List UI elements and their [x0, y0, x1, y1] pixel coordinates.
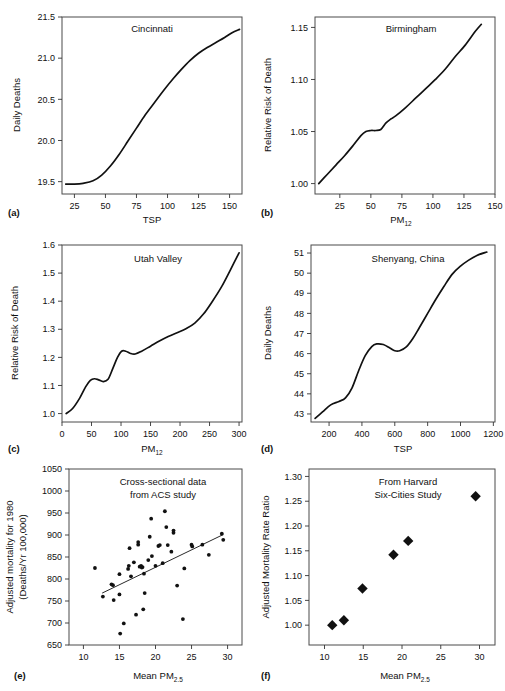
y-tick-label: 950 [47, 508, 62, 518]
y-tick-label: 1.00 [284, 620, 302, 630]
y-tick-label: 1.3 [42, 324, 55, 334]
x-tick-label: 25 [69, 201, 79, 211]
y-axis-label: Daily Deaths [11, 78, 22, 132]
x-tick-label: 1000 [450, 429, 470, 439]
y-tick-label: 1.6 [42, 240, 55, 250]
diamond-marker [357, 583, 367, 593]
y-tick-label: 19.5 [37, 177, 55, 187]
x-tick-label: 300 [232, 429, 247, 439]
y-tick-label: 1.05 [290, 127, 308, 137]
y-tick-label: 700 [47, 618, 62, 628]
y-tick-label: 20.5 [37, 95, 55, 105]
y-axis-label-line1: Adjusted mortality for 1980 [4, 500, 15, 613]
y-tick-label: 1.0 [42, 409, 55, 419]
x-axis-label: Mean PM2.5 [133, 670, 183, 683]
diamond-marker [470, 491, 480, 501]
y-tick-label: 44 [294, 389, 304, 399]
y-tick-label: 1000 [42, 486, 62, 496]
x-tick-label: 20 [150, 652, 160, 662]
y-axis-ticks: 1.01.11.21.31.41.51.6 [42, 240, 62, 419]
data-curve [66, 253, 239, 414]
scatter-point [118, 593, 122, 597]
y-tick-label: 1.2 [42, 353, 55, 363]
scatter-point [118, 572, 122, 576]
panel-f-harvard-six-cities: 1.001.051.101.151.201.251.30 1015202530 … [253, 461, 505, 691]
y-tick-label: 750 [47, 596, 62, 606]
scatter-point [128, 546, 132, 550]
scatter-point [101, 595, 105, 599]
x-tick-label: 125 [191, 201, 206, 211]
scatter-point [172, 531, 176, 535]
x-tick-label: 150 [222, 201, 237, 211]
y-axis-ticks: 434445464748495051 [294, 248, 311, 419]
scatter-point [142, 572, 146, 576]
x-axis-label: TSP [394, 443, 412, 454]
y-tick-label: 1.30 [284, 472, 302, 482]
y-tick-label: 46 [294, 349, 304, 359]
panel-title-line1: From Harvard [379, 476, 438, 487]
panel-title-line2: from ACS study [130, 489, 196, 500]
y-tick-label: 49 [294, 288, 304, 298]
scatter-point [150, 554, 154, 558]
x-axis-label: PM12 [141, 443, 163, 456]
x-tick-label: 100 [425, 201, 440, 211]
panel-letter: (d) [261, 443, 273, 454]
panel-letter: (b) [261, 207, 273, 218]
scatter-point [143, 591, 147, 595]
plot-frame [311, 245, 495, 422]
y-tick-label: 45 [294, 369, 304, 379]
panel-letter: (f) [261, 670, 271, 681]
panel-title: Shenyang, China [372, 253, 446, 264]
panel-d-shenyang: 434445464748495051 20040060080010001200 … [253, 230, 505, 460]
data-curve [319, 24, 482, 183]
y-tick-label: 800 [47, 574, 62, 584]
x-tick-label: 75 [131, 201, 141, 211]
scatter-point [154, 564, 158, 568]
x-tick-label: 100 [114, 429, 129, 439]
panel-title: Utah Valley [134, 253, 182, 264]
y-tick-label: 1.1 [42, 381, 55, 391]
x-tick-label: 30 [474, 652, 484, 662]
x-axis-ticks: 1015202530 [319, 645, 484, 662]
x-tick-label: 1200 [483, 429, 503, 439]
y-tick-label: 48 [294, 309, 304, 319]
y-tick-label: 21.0 [37, 53, 55, 63]
x-tick-label: 25 [436, 652, 446, 662]
y-tick-label: 1.10 [284, 571, 302, 581]
x-tick-label: 15 [358, 652, 368, 662]
panel-d-svg: 434445464748495051 20040060080010001200 … [253, 230, 505, 460]
x-axis-ticks: 255075100125150 [69, 194, 237, 211]
panel-a-svg: 19.520.020.521.021.5 255075100125150 Cin… [0, 0, 252, 230]
scatter-point [134, 613, 138, 617]
scatter-point [141, 607, 145, 611]
x-tick-label: 10 [78, 652, 88, 662]
x-tick-label: 20 [397, 652, 407, 662]
scatter-point [149, 517, 153, 521]
panel-letter: (a) [8, 207, 20, 218]
scatter-point [200, 543, 204, 547]
x-tick-label: 50 [366, 201, 376, 211]
scatter-point [175, 584, 179, 588]
x-tick-label: 10 [319, 652, 329, 662]
x-tick-label: 200 [322, 429, 337, 439]
scatter-point [136, 540, 140, 544]
panel-letter: (e) [14, 670, 26, 681]
y-tick-label: 850 [47, 552, 62, 562]
panel-b-birmingham: 1.001.051.101.15 255075100125150 Birming… [253, 0, 505, 230]
x-tick-label: 150 [487, 201, 502, 211]
plot-frame [315, 17, 495, 194]
diamond-marker [327, 620, 337, 630]
scatter-point [221, 538, 225, 542]
x-tick-label: 100 [160, 201, 175, 211]
x-axis-ticks: 050100150200250300 [59, 422, 246, 439]
scatter-point [112, 598, 116, 602]
x-axis-ticks: 255075100125150 [335, 194, 503, 211]
x-axis-label: PM12 [390, 214, 412, 227]
panel-title: Cincinnati [131, 23, 173, 34]
panel-title-line2: Six-Cities Study [374, 489, 441, 500]
y-axis-label: Relative Risk of Death [262, 58, 273, 152]
figure-panel-grid: 19.520.020.521.021.5 255075100125150 Cin… [0, 0, 505, 691]
scatter-point [122, 622, 126, 626]
scatter-point [163, 509, 167, 513]
y-axis-ticks: 1.001.051.101.151.201.251.30 [284, 472, 309, 631]
